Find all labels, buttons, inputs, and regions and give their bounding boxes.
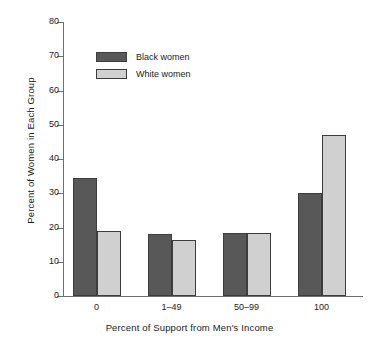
bar-black-women (298, 193, 322, 296)
y-axis-tick-label: 70 (49, 50, 59, 60)
bar-black-women (148, 234, 172, 296)
x-axis-line (63, 296, 363, 297)
bar-black-women (73, 178, 97, 296)
bar-white-women (322, 135, 346, 296)
bar-black-women (223, 233, 247, 296)
bar-white-women (97, 231, 121, 296)
x-axis-title: Percent of Support from Men's Income (0, 322, 379, 333)
y-axis-tick-label: 30 (49, 187, 59, 197)
legend-item: White women (96, 67, 191, 81)
y-axis-tick-label: 80 (49, 16, 59, 26)
legend-label: Black women (136, 52, 190, 62)
legend-item: Black women (96, 50, 191, 64)
y-axis-tick-label: 0 (54, 290, 59, 300)
y-axis-tick-label: 20 (49, 222, 59, 232)
bar-chart-figure: Percent of Women in Each Group Percent o… (0, 0, 379, 346)
legend-swatch-black-women (96, 52, 127, 62)
y-axis-tick-label: 60 (49, 85, 59, 95)
bar-white-women (172, 240, 196, 296)
bar-white-women (247, 233, 271, 296)
y-axis-line (63, 22, 64, 296)
legend-swatch-white-women (96, 69, 127, 79)
y-axis-title: Percent of Women in Each Group (25, 36, 36, 266)
y-axis-tick-label: 50 (49, 119, 59, 129)
legend-label: White women (136, 69, 191, 79)
bar-group (298, 22, 346, 296)
y-axis-tick-label: 10 (49, 256, 59, 266)
bar-group (223, 22, 271, 296)
y-axis-tick-label: 40 (49, 153, 59, 163)
chart-legend: Black women White women (96, 50, 191, 84)
x-axis-tick-label: 100 (278, 302, 366, 312)
